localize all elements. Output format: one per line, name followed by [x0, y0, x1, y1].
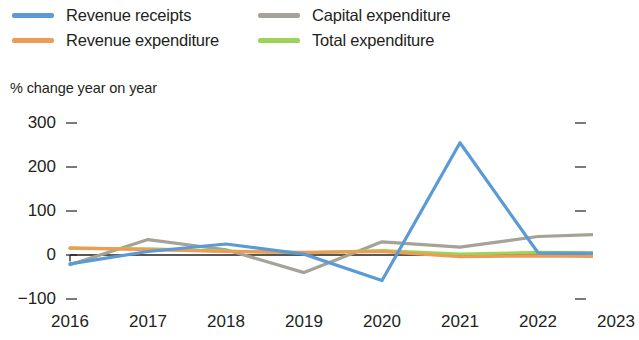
legend-item-revenue-receipts: Revenue receipts — [12, 7, 191, 24]
x-tick-label: 2019 — [269, 313, 339, 330]
axis-ticks-right — [575, 123, 586, 299]
axis-ticks-left — [66, 123, 77, 299]
legend-swatch-revenue-expenditure — [12, 38, 54, 43]
x-tick-label: 2018 — [191, 313, 261, 330]
x-tick-label: 2023 — [581, 313, 639, 330]
y-tick-label: 0 — [2, 246, 56, 263]
legend-item-total-expenditure: Total expenditure — [258, 32, 434, 49]
y-tick-label: −100 — [2, 290, 56, 307]
x-tick-label: 2022 — [503, 313, 573, 330]
series-line-capital-expenditure — [70, 234, 593, 273]
y-tick-label: 300 — [2, 114, 56, 131]
y-tick-label: 100 — [2, 202, 56, 219]
legend-label-total-expenditure: Total expenditure — [312, 32, 434, 49]
legend-swatch-revenue-receipts — [12, 13, 54, 18]
series-line-revenue-receipts — [70, 143, 593, 281]
legend-label-revenue-receipts: Revenue receipts — [66, 7, 191, 24]
chart-legend: Revenue receipts Revenue expenditure Cap… — [0, 0, 593, 58]
series-line-revenue-expenditure — [70, 248, 593, 257]
legend-item-revenue-expenditure: Revenue expenditure — [12, 32, 219, 49]
y-axis-title: % change year on year — [10, 80, 157, 96]
series-line-total-expenditure — [70, 248, 593, 254]
legend-swatch-total-expenditure — [258, 38, 300, 43]
legend-label-capital-expenditure: Capital expenditure — [312, 7, 450, 24]
legend-swatch-capital-expenditure — [258, 13, 300, 18]
x-tick-label: 2020 — [347, 313, 417, 330]
legend-item-capital-expenditure: Capital expenditure — [258, 7, 450, 24]
y-tick-label: 200 — [2, 158, 56, 175]
x-tick-label: 2021 — [425, 313, 495, 330]
x-tick-label: 2016 — [35, 313, 105, 330]
x-tick-label: 2017 — [113, 313, 183, 330]
legend-label-revenue-expenditure: Revenue expenditure — [66, 32, 219, 49]
zero-baseline — [70, 255, 586, 262]
series-lines — [70, 143, 593, 281]
